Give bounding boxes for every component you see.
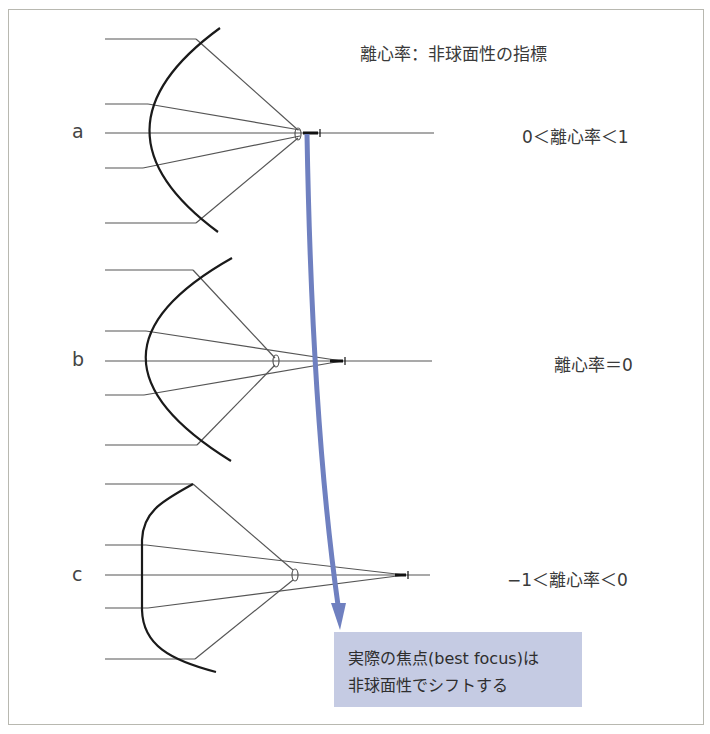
- note-line-1: 実際の焦点(best focus)は: [348, 645, 582, 672]
- arrow-head-icon: [331, 603, 346, 630]
- eccentricity-definition: 離心率：非球面性の指標: [360, 40, 547, 65]
- mirror-a: [149, 28, 220, 232]
- row-b-diagram: [105, 270, 432, 445]
- condition-a: 0＜離心率＜1: [522, 123, 629, 148]
- row-a-diagram: [105, 39, 434, 223]
- best-focus-note: 実際の焦点(best focus)は 非球面性でシフトする: [334, 632, 582, 707]
- condition-c: −1＜離心率＜0: [507, 566, 628, 591]
- mirror-c: [142, 484, 216, 672]
- mirror-b: [146, 258, 232, 461]
- focus-shift-arrow: [307, 134, 338, 605]
- note-line-2: 非球面性でシフトする: [348, 672, 582, 699]
- condition-b: 離心率＝0: [554, 351, 633, 376]
- row-letter-a: a: [72, 120, 84, 142]
- row-letter-b: b: [72, 348, 84, 370]
- row-letter-c: c: [72, 563, 82, 585]
